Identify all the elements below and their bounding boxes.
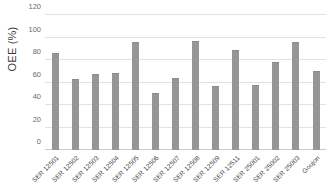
y-tick-label: 60 — [33, 69, 41, 78]
plot-area: 020406080100120 — [45, 15, 326, 150]
y-tick-label: 120 — [28, 2, 41, 11]
x-label-slot: SER 25003 — [286, 152, 306, 196]
bar-slot — [266, 15, 286, 150]
bar-slot — [125, 15, 145, 150]
bar[interactable] — [192, 41, 199, 150]
bar-slot — [65, 15, 85, 150]
y-tick-label: 0 — [37, 137, 41, 146]
bar[interactable] — [52, 53, 59, 150]
bar-series — [45, 15, 326, 150]
bar[interactable] — [292, 42, 299, 150]
bar-slot — [45, 15, 65, 150]
bar-slot — [85, 15, 105, 150]
bar-slot — [286, 15, 306, 150]
bar[interactable] — [132, 42, 139, 150]
bar[interactable] — [152, 93, 159, 150]
bar[interactable] — [252, 85, 259, 150]
bar[interactable] — [313, 71, 320, 150]
x-tick-labels: SER 12501SER 12502SER 12503SER 12504SER … — [45, 152, 326, 196]
bar-slot — [186, 15, 206, 150]
bar[interactable] — [232, 50, 239, 150]
bar[interactable] — [172, 78, 179, 150]
y-axis-title: OEE (%) — [6, 14, 20, 84]
bar-slot — [105, 15, 125, 150]
oee-bar-chart: OEE (%) 020406080100120 SER 12501SER 125… — [0, 0, 331, 196]
bar[interactable] — [72, 79, 79, 150]
bar[interactable] — [112, 73, 119, 151]
bar[interactable] — [92, 74, 99, 150]
bar[interactable] — [212, 86, 219, 150]
bar-slot — [246, 15, 266, 150]
bar-slot — [165, 15, 185, 150]
bar-slot — [306, 15, 326, 150]
bar-slot — [145, 15, 165, 150]
bar-slot — [226, 15, 246, 150]
bar-slot — [206, 15, 226, 150]
y-tick-label: 40 — [33, 92, 41, 101]
x-label-slot: Goujon — [306, 152, 326, 196]
y-tick-label: 100 — [28, 24, 41, 33]
bar[interactable] — [272, 62, 279, 150]
y-tick-label: 20 — [33, 114, 41, 123]
y-tick-label: 80 — [33, 47, 41, 56]
